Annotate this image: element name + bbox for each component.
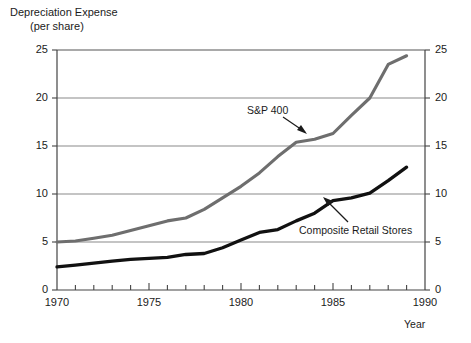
series-line-sp400 bbox=[57, 56, 407, 242]
x-axis-tick-label: 1975 bbox=[127, 296, 171, 309]
y-axis-right-tick-label: 0 bbox=[435, 283, 459, 296]
x-axis-tick-label: 1990 bbox=[403, 296, 447, 309]
y-axis-right-tick-label: 10 bbox=[435, 187, 459, 200]
y-axis-left-tick-label: 10 bbox=[26, 187, 48, 200]
series-line-composite-retail-stores bbox=[57, 167, 407, 267]
y-axis-left-tick-label: 20 bbox=[26, 91, 48, 104]
y-axis-right-tick-label: 15 bbox=[435, 139, 459, 152]
y-axis-right-tick-label: 5 bbox=[435, 235, 459, 248]
y-axis-left-tick-label: 25 bbox=[26, 43, 48, 56]
x-axis-title: Year bbox=[404, 318, 425, 330]
x-axis-ticks bbox=[75, 283, 406, 290]
series-label-composite-retail-stores: Composite Retail Stores bbox=[299, 224, 412, 236]
y-axis-right-tick-label: 20 bbox=[435, 91, 459, 104]
chart-page: Depreciation Expense (per share) bbox=[0, 0, 471, 343]
y-axis-left-ticks bbox=[52, 50, 57, 290]
series-label-sp400: S&P 400 bbox=[247, 104, 288, 116]
gridlines bbox=[57, 50, 425, 242]
x-axis-tick-label: 1970 bbox=[35, 296, 79, 309]
sp400-callout-arrow bbox=[283, 117, 307, 134]
y-axis-left-tick-label: 15 bbox=[26, 139, 48, 152]
y-axis-right-tick-label: 25 bbox=[435, 43, 459, 56]
line-chart-plot bbox=[0, 0, 471, 343]
axis-lines bbox=[57, 50, 425, 290]
y-axis-right-ticks bbox=[425, 50, 430, 290]
x-axis-tick-label: 1980 bbox=[219, 296, 263, 309]
y-axis-left-tick-label: 5 bbox=[26, 235, 48, 248]
x-axis-tick-label: 1985 bbox=[311, 296, 355, 309]
y-axis-left-tick-label: 0 bbox=[26, 283, 48, 296]
